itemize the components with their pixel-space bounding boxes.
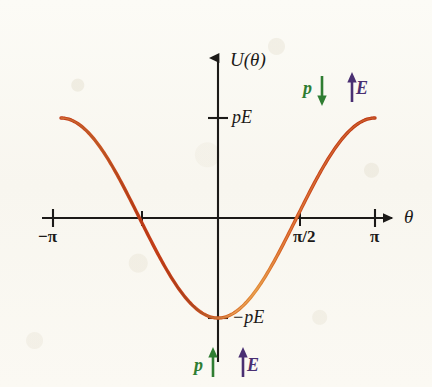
y-tick-label-pE: pE [232,108,252,126]
p-vector-label-top: p⃗ [303,79,326,97]
dipole-energy-figure: U(θ) θ pE −pE −π π/2 π p⃗ E⃗ p⃗ E⃗ [0,0,432,387]
x-tick-label-minus-pi: −π [38,228,57,245]
x-tick-label-half-pi: π/2 [293,228,316,245]
y-tick-label-minus-pE: −pE [232,308,264,326]
y-axis-label: U(θ) [230,50,266,69]
e-vector-label-bottom: E⃗ [247,356,273,374]
p-vector-label-bottom: p⃗ [194,356,217,374]
plot-canvas [0,0,432,387]
e-vector-label-top: E⃗ [356,79,382,97]
x-tick-label-pi: π [370,228,379,245]
x-axis-label: θ [404,207,413,226]
potential-energy-curve [53,118,300,279]
